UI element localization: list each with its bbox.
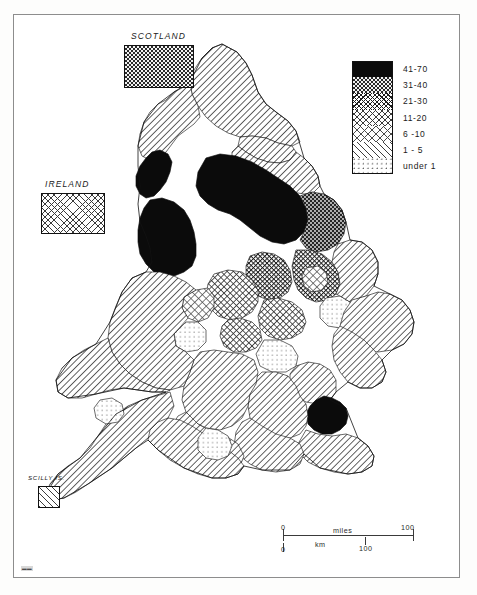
- scilly-inset-label: SCILLY IS.: [28, 474, 65, 481]
- legend: 41-70 31-40 21-30 11-20 6 -10 1 - 5 unde…: [352, 61, 456, 174]
- scale-bar: 0 100 miles 0 100 km: [283, 523, 415, 557]
- legend-label-31-40: 31-40: [393, 80, 428, 90]
- region-wiltshire: [198, 428, 232, 460]
- legend-swatch-41-70: [352, 61, 393, 77]
- legend-label-6-10: 6 -10: [393, 129, 425, 139]
- county-cumberland: [138, 82, 200, 160]
- legend-label-11-20: 11-20: [393, 113, 427, 123]
- scotland-inset-label: SCOTLAND: [131, 31, 186, 41]
- scale-bar-miles-end-label: 100: [401, 523, 415, 532]
- scale-bar-miles-unit-label: miles: [333, 526, 352, 535]
- ireland-inset-label: IRELAND: [45, 179, 90, 189]
- scale-bar-km-end-label: 100: [359, 544, 373, 553]
- region-lancashire-north-black: [136, 150, 172, 198]
- legend-item: 6 -10: [352, 126, 456, 142]
- legend-item: 41-70: [352, 61, 456, 77]
- legend-label-1-5: 1 - 5: [393, 145, 423, 155]
- printer-mark: ▬▬: [21, 566, 33, 571]
- county-northumberland: [190, 44, 300, 146]
- legend-item: 11-20: [352, 110, 456, 126]
- ireland-inset-swatch: [41, 193, 105, 234]
- legend-label-41-70: 41-70: [393, 64, 428, 74]
- legend-item: 21-30: [352, 93, 456, 109]
- legend-item: 31-40: [352, 77, 456, 93]
- legend-swatch-under-1: [352, 158, 393, 174]
- scale-bar-miles-line: [283, 535, 414, 536]
- legend-swatch-21-30: [352, 93, 393, 109]
- scale-bar-km-unit-label: km: [315, 540, 326, 549]
- region-warwickshire: [220, 318, 262, 352]
- legend-swatch-6-10: [352, 126, 393, 142]
- region-northamptonshire: [256, 340, 298, 372]
- scale-bar-miles-start-label: 0: [281, 523, 286, 532]
- scotland-inset-swatch: [124, 45, 194, 88]
- scale-bar-km-start-label: 0: [281, 545, 286, 554]
- legend-item: under 1: [352, 158, 456, 174]
- legend-swatch-1-5: [352, 142, 393, 158]
- scilly-inset-swatch: [38, 486, 60, 508]
- legend-label-under-1: under 1: [393, 161, 436, 171]
- region-somerset-levels: [94, 398, 124, 424]
- county-kent: [298, 430, 374, 474]
- region-leicestershire: [258, 298, 306, 340]
- legend-item: 1 - 5: [352, 142, 456, 158]
- map-page: 41-70 31-40 21-30 11-20 6 -10 1 - 5 unde…: [0, 0, 477, 595]
- legend-swatch-11-20: [352, 110, 393, 126]
- legend-label-21-30: 21-30: [393, 96, 428, 106]
- legend-swatch-31-40: [352, 77, 393, 93]
